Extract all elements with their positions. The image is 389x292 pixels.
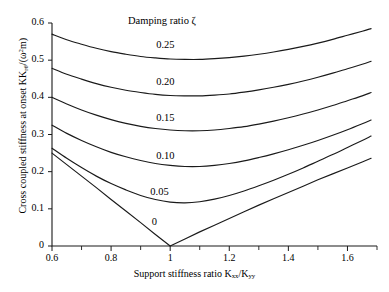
x-axis-label: Support stiffness ratio Kxx/Kyy	[0, 268, 389, 279]
series-curve-0p10	[52, 120, 371, 167]
series-curve-0p20	[52, 61, 371, 96]
series-curve-0p05	[52, 136, 371, 203]
y-axis-label-symbol: K	[17, 71, 28, 78]
y-tick-label: 0.6	[18, 16, 44, 27]
x-tick-label: 0.8	[96, 252, 126, 263]
y-axis-label-suffix: m)	[17, 38, 28, 49]
series-label-0p15: 0.15	[156, 112, 174, 123]
y-tick-label: 0	[18, 239, 44, 250]
x-tick-label: 1.6	[332, 252, 362, 263]
x-axis-label-subscript-yy: yy	[248, 272, 255, 279]
axis-lines	[52, 23, 377, 246]
series-curve-0p25	[52, 29, 371, 60]
x-axis-label-slash: /K	[238, 268, 248, 279]
x-tick-label: 1.4	[273, 252, 303, 263]
y-tick-label: 0.2	[18, 165, 44, 176]
x-tick-label: 1.2	[214, 252, 244, 263]
x-tick-label: 1	[155, 252, 185, 263]
series-label-0: 0	[152, 216, 157, 227]
y-tick-label: 0.3	[18, 128, 44, 139]
chart-plot-area	[0, 0, 389, 292]
series-curve-0p15	[52, 93, 371, 131]
chart-figure: Cross coupled stiffness at onset KKrθ̇/(…	[0, 0, 389, 292]
series-label-0p10: 0.10	[156, 150, 174, 161]
y-tick-label: 0.5	[18, 53, 44, 64]
series-label-0p20: 0.20	[156, 76, 174, 87]
y-axis-label-superscript: 2	[17, 49, 24, 52]
y-axis-label-subscript: rθ̇	[22, 65, 29, 71]
x-tick-label: 0.6	[37, 252, 67, 263]
y-tick-label: 0.4	[18, 90, 44, 101]
y-tick-label: 0.1	[18, 202, 44, 213]
legend-title: Damping ratio ζ	[128, 15, 196, 26]
series-label-0p05: 0.05	[150, 186, 168, 197]
x-axis-label-prefix: Support stiffness ratio K	[134, 268, 232, 279]
series-label-0p25: 0.25	[156, 39, 174, 50]
